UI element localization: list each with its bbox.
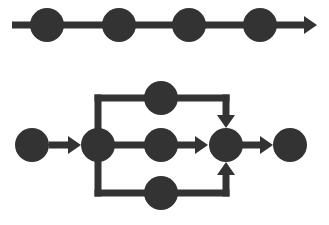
sequential-node-3[interactable]	[172, 8, 206, 42]
sequential-node-1[interactable]	[30, 8, 64, 42]
fork-join-branch-middle-node[interactable]	[144, 128, 178, 162]
sequential-node-2[interactable]	[102, 8, 136, 42]
edge-merge-to-end	[242, 142, 261, 149]
edge-start-to-split	[49, 142, 70, 149]
edge-bottom-into-merge	[223, 174, 230, 197]
diagram-canvas	[0, 0, 329, 225]
fork-join-end-node[interactable]	[273, 128, 307, 162]
fork-join-start-node[interactable]	[15, 128, 49, 162]
edge-top-into-merge	[223, 95, 230, 117]
fork-join-split-node[interactable]	[81, 128, 115, 162]
workflow-diagram-svg	[0, 0, 329, 225]
fork-join-merge-node[interactable]	[209, 128, 243, 162]
fork-join-branch-bottom-node[interactable]	[144, 176, 178, 210]
sequential-node-4[interactable]	[243, 8, 277, 42]
fork-join-branch-top-node[interactable]	[144, 81, 178, 115]
